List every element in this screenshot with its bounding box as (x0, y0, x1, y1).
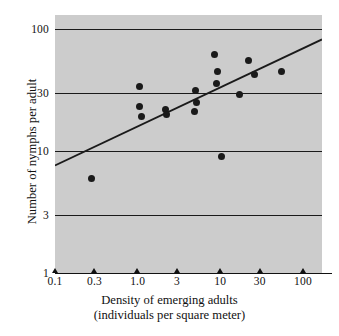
x-axis-title-line-1: Density of emerging adults (101, 293, 238, 307)
gridline-y-100 (55, 29, 322, 30)
data-point (88, 175, 95, 182)
data-point (191, 108, 198, 115)
data-point (136, 83, 143, 90)
data-point (214, 68, 221, 75)
x-axis-title: Density of emerging adults (individuals … (0, 293, 339, 323)
data-point (136, 103, 143, 110)
x-tick-label-100: 100 (294, 275, 312, 287)
x-tick-label-30: 30 (254, 275, 266, 287)
x-tick-label-1.0: 1.0 (130, 275, 145, 287)
x-tick-mark-3 (174, 268, 180, 273)
data-point (245, 57, 252, 64)
data-point (211, 51, 218, 58)
x-tick-mark-30 (257, 268, 263, 273)
x-tick-mark-100 (300, 268, 306, 273)
scatter-plot-figure: 0.10.31.031030100 131030100 Number of ny… (0, 0, 339, 336)
data-point (218, 153, 225, 160)
x-tick-label-10: 10 (214, 275, 226, 287)
x-tick-mark-0.3 (91, 268, 97, 273)
data-point (213, 80, 220, 87)
data-point (163, 111, 170, 118)
y-tick-label-1: 1 (43, 267, 49, 279)
data-point (236, 91, 243, 98)
y-axis-title: Number of nymphs per adult (25, 42, 40, 262)
data-point (278, 68, 285, 75)
regression-trendline (55, 15, 322, 273)
data-point (138, 113, 145, 120)
x-tick-mark-0.1 (52, 268, 58, 273)
plot-area (55, 15, 322, 273)
x-tick-mark-10 (217, 268, 223, 273)
data-point (193, 99, 200, 106)
gridline-y-30 (55, 93, 322, 94)
y-tick-label-100: 100 (31, 23, 49, 35)
x-tick-label-0.1: 0.1 (48, 275, 63, 287)
x-tick-label-3: 3 (174, 275, 180, 287)
gridline-y-10 (55, 151, 322, 152)
x-axis-title-line-2: (individuals per square meter) (0, 308, 339, 323)
data-point (251, 71, 258, 78)
y-tick-label-3: 3 (43, 209, 49, 221)
gridline-y-3 (55, 215, 322, 216)
x-tick-label-0.3: 0.3 (87, 275, 102, 287)
x-tick-mark-1.0 (134, 268, 140, 273)
